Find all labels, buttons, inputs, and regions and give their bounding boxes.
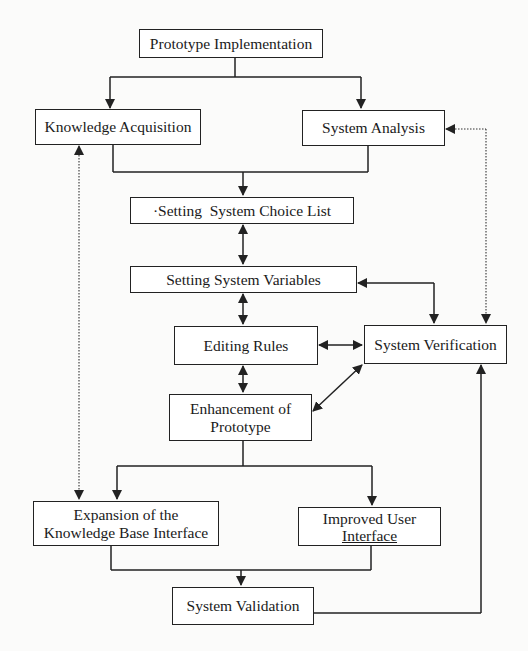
node-improved-user-interface: Improved User Interface xyxy=(298,507,441,546)
node-label-line2: Interface xyxy=(342,527,397,544)
node-expansion-knowledge-base-interface: Expansion of the Knowledge Base Interfac… xyxy=(33,501,219,546)
node-knowledge-acquisition: Knowledge Acquisition xyxy=(35,109,201,145)
node-enhancement-of-prototype: Enhancement of Prototype xyxy=(169,394,312,441)
node-label: System Analysis xyxy=(322,119,425,137)
node-system-validation: System Validation xyxy=(172,587,314,625)
node-label-line2: Prototype xyxy=(210,418,270,436)
node-setting-system-variables: Setting System Variables xyxy=(130,266,357,293)
node-system-analysis: System Analysis xyxy=(302,110,445,146)
node-label: System Verification xyxy=(374,336,496,354)
node-label-line1: Expansion of the xyxy=(73,506,178,524)
node-label: Knowledge Acquisition xyxy=(45,118,192,136)
node-prototype-implementation: Prototype Implementation xyxy=(139,29,323,58)
node-label-line1: Improved User xyxy=(323,510,416,527)
node-setting-system-choice-list: ·Setting System Choice List xyxy=(130,197,354,224)
node-label-line2: Knowledge Base Interface xyxy=(44,524,208,542)
node-editing-rules: Editing Rules xyxy=(174,326,318,365)
flowchart-canvas: Prototype Implementation Knowledge Acqui… xyxy=(0,0,528,651)
node-label: Setting System Variables xyxy=(166,271,321,289)
node-label: System Validation xyxy=(187,597,300,615)
node-label: ·Setting System Choice List xyxy=(153,202,331,220)
node-label: Editing Rules xyxy=(204,337,289,355)
node-label-line1: Enhancement of xyxy=(190,400,291,418)
node-system-verification: System Verification xyxy=(364,325,507,364)
node-label: Prototype Implementation xyxy=(150,35,312,53)
